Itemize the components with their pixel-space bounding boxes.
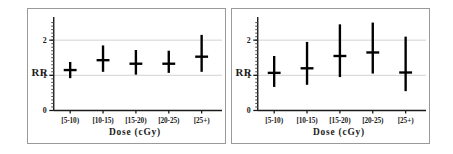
chart-right-svg: 012 [5-10)[10-15)[15-20)[20-25)[25+) RR … [232,9,429,143]
y-tick-label: 2 [43,36,47,45]
x-category-label: [10-15) [92,116,114,125]
right-gridlines [258,40,426,75]
x-category-label: [10-15) [296,116,318,125]
x-axis-title-left: Dose (cGy) [109,127,161,138]
x-category-label: [15-20) [329,116,351,125]
x-category-label: [20-25) [158,116,180,125]
right-axes [258,17,426,111]
y-axis-title-right: RR [235,66,252,78]
x-category-label: [5-10) [61,116,79,125]
left-error-bars [64,35,208,78]
x-category-label: [25+) [398,116,415,125]
y-tick-label: 0 [43,106,47,115]
x-axis-title-right: Dose (cGy) [313,127,365,138]
x-category-label: [5-10) [265,116,283,125]
left-category-labels: [5-10)[10-15)[15-20)[20-25)[25+) [61,116,210,125]
chart-panel-left: 012 [5-10)[10-15)[15-20)[20-25)[25+) RR … [27,8,226,144]
y-tick-label: 2 [247,36,251,45]
x-category-label: [25+) [194,116,211,125]
chart-panel-right: 012 [5-10)[10-15)[15-20)[20-25)[25+) RR … [231,8,430,144]
x-category-label: [15-20) [125,116,147,125]
right-category-labels: [5-10)[10-15)[15-20)[20-25)[25+) [265,116,414,125]
chart-left-svg: 012 [5-10)[10-15)[15-20)[20-25)[25+) RR … [28,9,225,143]
figure-container: 012 [5-10)[10-15)[15-20)[20-25)[25+) RR … [0,0,453,154]
x-category-label: [20-25) [362,116,384,125]
y-axis-title-left: RR [31,66,48,78]
right-error-bars [268,23,412,92]
y-tick-label: 0 [247,106,251,115]
